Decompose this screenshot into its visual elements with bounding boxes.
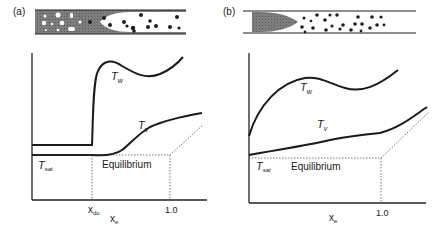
tv-curve-b xyxy=(249,107,427,155)
equilibrium-label-b: Equilibrium xyxy=(291,161,340,172)
one-tick-label-b: 1.0 xyxy=(376,208,389,218)
tube-b-diagram xyxy=(243,11,416,33)
equilibrium-label-a: Equilibrium xyxy=(102,159,151,170)
x-axis-label-a: xe xyxy=(110,213,119,225)
tw-label-a: Tw xyxy=(111,70,124,84)
liquid-core xyxy=(252,12,298,32)
tw-label-b: Tw xyxy=(300,81,313,95)
panel-b: (b) xyxy=(223,6,429,224)
xdo-tick-label: xdo xyxy=(88,204,100,216)
tube-a-diagram xyxy=(35,10,186,34)
droplets-b xyxy=(300,13,385,33)
tw-curve-a xyxy=(32,57,183,145)
figure-canvas: (a) xyxy=(0,0,445,232)
tv-curve-a xyxy=(92,113,202,155)
panel-a-label: (a) xyxy=(13,6,25,17)
panel-b-label: (b) xyxy=(223,6,235,17)
tsat-label-a: Tsat xyxy=(38,159,53,172)
x-axis-label-b: xe xyxy=(329,212,338,224)
tv-label-a: Tv xyxy=(138,119,149,133)
one-tick-label-a: 1.0 xyxy=(165,205,178,215)
equilibrium-region-b xyxy=(249,112,429,203)
tsat-label-b: Tsat xyxy=(256,160,271,173)
panel-a: (a) xyxy=(13,6,207,225)
tv-label-b: Tv xyxy=(317,118,328,132)
